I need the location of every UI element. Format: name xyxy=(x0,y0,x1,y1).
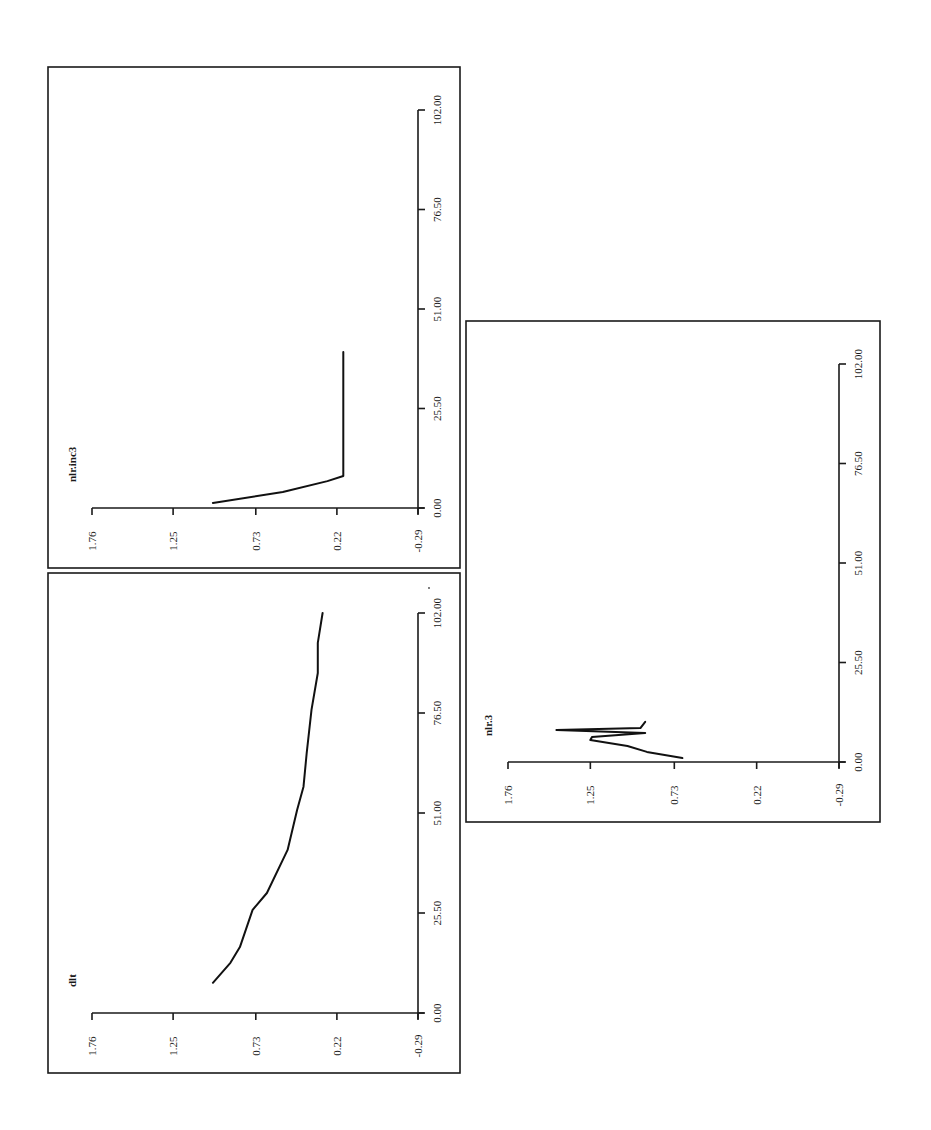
value-tick-label: 1.76 xyxy=(502,785,514,805)
panel-frame xyxy=(48,573,460,1073)
value-tick-label: 0.73 xyxy=(250,531,262,551)
value-tick-label: -0.29 xyxy=(412,1034,424,1057)
panel-nlr-inc3: -0.290.220.731.251.760.0025.5051.0076.50… xyxy=(48,67,460,568)
value-tick-label: 1.25 xyxy=(167,531,179,551)
time-tick-label: 51.00 xyxy=(431,800,443,825)
time-tick-label: 102.00 xyxy=(431,94,443,125)
series-line xyxy=(213,352,343,503)
panel-nlr-3: -0.290.220.731.251.760.0025.5051.0076.50… xyxy=(466,321,880,822)
value-tick-label: 1.76 xyxy=(86,531,98,551)
time-tick-label: 51.00 xyxy=(431,296,443,321)
panel-title: nlr.inc3 xyxy=(66,446,78,482)
value-tick-label: 0.22 xyxy=(331,1036,343,1055)
time-tick-label: 25.50 xyxy=(431,396,443,421)
series-line xyxy=(213,613,323,983)
time-tick-label: 76.50 xyxy=(431,197,443,222)
value-tick-label: -0.29 xyxy=(412,529,424,552)
value-tick-label: 1.25 xyxy=(167,1036,179,1056)
panel-frame xyxy=(466,321,880,822)
chart-page: -0.290.220.731.251.760.0025.5051.0076.50… xyxy=(0,0,931,1130)
panel-frame xyxy=(48,67,460,568)
time-tick-label: 76.50 xyxy=(431,700,443,725)
time-tick-label: 25.50 xyxy=(431,900,443,925)
time-tick-label: 51.00 xyxy=(852,550,864,575)
panel-title: dlt xyxy=(66,974,78,987)
value-tick-label: 0.22 xyxy=(331,531,343,550)
time-tick-label: 0.00 xyxy=(431,498,443,518)
value-tick-label: -0.29 xyxy=(833,783,845,806)
panel-dlt: -0.290.220.731.251.760.0025.5051.0076.50… xyxy=(48,573,460,1073)
value-tick-label: 0.22 xyxy=(751,785,763,804)
value-tick-label: 0.73 xyxy=(668,785,680,805)
time-tick-label: 0.00 xyxy=(852,752,864,772)
time-tick-label: 102.00 xyxy=(431,597,443,628)
value-tick-label: 1.76 xyxy=(86,1036,98,1056)
time-tick-label: 76.50 xyxy=(852,451,864,476)
time-tick-label: 25.50 xyxy=(852,650,864,675)
time-tick-label: 0.00 xyxy=(431,1003,443,1023)
time-tick-label: 102.00 xyxy=(852,348,864,379)
scan-speck xyxy=(428,587,430,589)
panel-title: nlr.3 xyxy=(482,714,494,736)
value-tick-label: 1.25 xyxy=(584,785,596,805)
value-tick-label: 0.73 xyxy=(250,1036,262,1056)
series-line xyxy=(556,722,682,758)
